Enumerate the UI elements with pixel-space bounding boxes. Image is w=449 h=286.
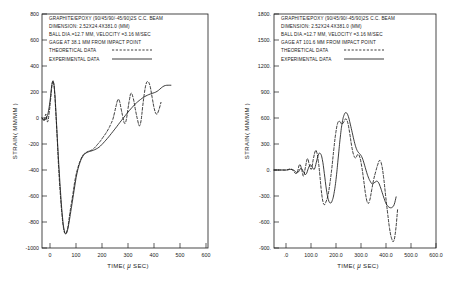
right-annotation-block: GRAPHITE/EPOXY (90/45/90/-45/90)2S C.C. … bbox=[281, 16, 395, 45]
right-annotation-line: BALL DIA.=12.7 MM, VELOCITY =3.16 M/SEC bbox=[281, 32, 383, 37]
right-curve-experimental bbox=[274, 113, 396, 208]
right-ytick-label: 600. bbox=[261, 115, 271, 121]
chart-panel-left: 800 600 400 200 0 -200 -400 -600 bbox=[0, 0, 228, 286]
left-xtick-label: 600 bbox=[202, 252, 211, 258]
right-ytick-label: -300. bbox=[259, 193, 271, 199]
left-xtick-label: 300 bbox=[124, 252, 133, 258]
right-xtick-label: 500.0 bbox=[404, 252, 417, 258]
left-ytick-label: -800 bbox=[28, 219, 39, 225]
left-annotation-line: BALL DIA.=12.7 MM, VELOCITY =3.16 M/SEC bbox=[49, 32, 151, 37]
left-ytick-label: -400 bbox=[28, 167, 39, 173]
left-plot-svg: 800 600 400 200 0 -200 -400 -600 bbox=[0, 0, 228, 286]
right-ytick-label: 1200. bbox=[258, 63, 271, 69]
right-xtick-label: .0 bbox=[284, 252, 288, 258]
left-ytick-label: -600 bbox=[28, 193, 39, 199]
right-plot-svg: 1800. 1500. 1200. 900. 600. 300. 0. -300… bbox=[228, 0, 449, 286]
left-y-axis-title: STRAIN( MM/MM ) bbox=[12, 103, 18, 159]
left-xtick-label: 400 bbox=[150, 252, 159, 258]
left-annotation-line: GRAPHITE/EPOXY (90/45/90/-45/90)2S C.C. … bbox=[49, 16, 163, 21]
right-xtick-label: 100.0 bbox=[304, 252, 317, 258]
right-annotation-line: DIMENSION: 2.52X24.4X381.0 (MM) bbox=[281, 24, 362, 29]
right-xtick-label: 600.0 bbox=[429, 252, 442, 258]
left-y-axis: 800 600 400 200 0 -200 -400 -600 bbox=[25, 11, 47, 251]
left-curve-theoretical bbox=[42, 81, 161, 234]
right-ytick-label: 1500. bbox=[258, 37, 271, 43]
right-ytick-label: -600. bbox=[259, 219, 271, 225]
left-x-axis: 0 100 200 300 400 500 600 bbox=[49, 243, 211, 258]
right-legend-label-experimental: EXPERIMENTAL DATA bbox=[281, 57, 332, 62]
left-xtick-label: 0 bbox=[49, 252, 52, 258]
right-annotation-line: GAGE AT 101.6 MM FROM IMPACT POINT bbox=[281, 40, 376, 45]
right-ytick-label: 0. bbox=[267, 167, 271, 173]
left-legend: THEORETICAL DATA EXPERIMENTAL DATA bbox=[49, 48, 152, 62]
right-x-axis-title: TIME( μ SEC) bbox=[337, 262, 379, 270]
right-y-axis-title: STRAIN( MM/MM ) bbox=[244, 103, 250, 159]
right-xtick-label: 400.0 bbox=[379, 252, 392, 258]
left-ytick-label: 600 bbox=[30, 37, 39, 43]
chart-panel-right: 1800. 1500. 1200. 900. 600. 300. 0. -300… bbox=[228, 0, 449, 286]
left-ytick-label: 400 bbox=[30, 63, 39, 69]
right-ytick-label: 1800. bbox=[258, 11, 271, 17]
left-legend-label-experimental: EXPERIMENTAL DATA bbox=[49, 57, 100, 62]
right-y-axis: 1800. 1500. 1200. 900. 600. 300. 0. -300… bbox=[258, 11, 279, 251]
left-annotation-block: GRAPHITE/EPOXY (90/45/90/-45/90)2S C.C. … bbox=[49, 16, 163, 45]
left-legend-label-theoretical: THEORETICAL DATA bbox=[49, 48, 97, 53]
left-ytick-label: 800 bbox=[30, 11, 39, 17]
right-ytick-label: -900. bbox=[259, 245, 271, 251]
left-ytick-label: -1000 bbox=[25, 245, 39, 251]
figure-sheet: 800 600 400 200 0 -200 -400 -600 bbox=[0, 0, 449, 286]
left-annotation-line: DIMENSION: 2.52X24.4X381.0 (MM) bbox=[49, 24, 130, 29]
left-ytick-label: 200 bbox=[30, 89, 39, 95]
left-annotation-line: GAGE AT 38.1 MM FROM IMPACT POINT bbox=[49, 40, 141, 45]
left-xtick-label: 100 bbox=[72, 252, 81, 258]
left-ytick-label: 0 bbox=[36, 115, 39, 121]
right-x-axis: .0 100.0 200.0 300.0 400.0 500.0 600.0 bbox=[284, 243, 443, 258]
right-legend-label-theoretical: THEORETICAL DATA bbox=[281, 48, 329, 53]
right-xtick-label: 200.0 bbox=[329, 252, 342, 258]
left-xtick-label: 200 bbox=[98, 252, 107, 258]
right-ytick-label: 300. bbox=[261, 141, 271, 147]
left-ytick-label: -200 bbox=[28, 141, 39, 147]
left-x-axis-title: TIME( μ SEC) bbox=[107, 262, 149, 270]
right-annotation-line: GRAPHITE/EPOXY (90/45/90/-45/90)2S C.C. … bbox=[281, 16, 395, 21]
left-xtick-label: 500 bbox=[176, 252, 185, 258]
right-legend: THEORETICAL DATA EXPERIMENTAL DATA bbox=[281, 48, 384, 62]
right-ytick-label: 900. bbox=[261, 89, 271, 95]
right-xtick-label: 300.0 bbox=[354, 252, 367, 258]
